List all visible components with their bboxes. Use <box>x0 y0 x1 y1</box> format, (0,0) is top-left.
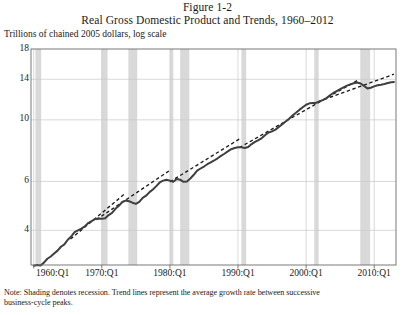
recession-band-1981-82 <box>180 49 189 265</box>
figure-note-line-2: business-cycle peaks. <box>4 298 73 307</box>
figure-title: Real Gross Domestic Product and Trends, … <box>0 14 415 26</box>
x-tick-label-1960:Q1: 1960:Q1 <box>36 268 69 278</box>
y-axis-tick-labels: 18141064 <box>0 0 29 315</box>
x-tick-label-1980:Q1: 1980:Q1 <box>153 268 186 278</box>
recession-band-1960-61 <box>35 49 41 265</box>
x-tick-label-2000:Q1: 2000:Q1 <box>289 268 322 278</box>
x-tick-label-1970:Q1: 1970:Q1 <box>85 268 118 278</box>
y-tick-label-10: 10 <box>5 113 29 123</box>
series-line-gdp <box>34 82 394 266</box>
figure-note-line-1: Note: Shading denotes recession. Trend l… <box>4 288 320 297</box>
gridlines-group <box>31 49 396 265</box>
recession-band-1990-91 <box>241 49 246 265</box>
x-tick-label-2010:Q1: 2010:Q1 <box>358 268 391 278</box>
y-tick-label-6: 6 <box>5 175 29 185</box>
figure-number: Figure 1-2 <box>0 1 415 13</box>
recession-shading-group <box>35 49 370 265</box>
figure-container: Figure 1-2 Real Gross Domestic Product a… <box>0 0 415 315</box>
x-tick-label-1990:Q1: 1990:Q1 <box>221 268 254 278</box>
recession-band-1980 <box>170 49 173 265</box>
y-tick-label-18: 18 <box>5 43 29 53</box>
gdp-series-group <box>34 82 394 266</box>
trend-1960-1969 <box>70 193 125 239</box>
y-tick-label-14: 14 <box>5 73 29 83</box>
recession-band-2007-09 <box>360 49 370 265</box>
plot-border <box>31 49 396 265</box>
trend-lines-group <box>70 74 393 239</box>
recession-band-1973-75 <box>128 49 137 265</box>
plot-frame <box>31 49 396 265</box>
y-tick-label-4: 4 <box>5 224 29 234</box>
recession-band-1970 <box>101 49 107 265</box>
recession-band-2001 <box>314 49 318 265</box>
